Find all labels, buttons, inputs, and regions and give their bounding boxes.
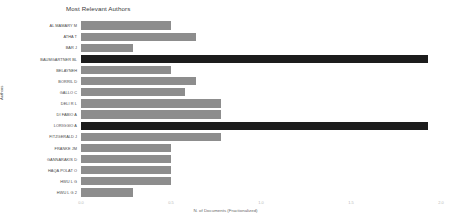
bar [81,21,171,29]
bar [81,122,428,130]
bar-fill [81,177,171,185]
bar-fill [81,44,133,52]
bar [81,133,221,141]
bar [81,110,221,118]
y-axis-tick-label: DELI R L [61,101,77,106]
plot-area [81,20,441,198]
x-axis-tick-label: 1.5 [348,200,354,205]
bar [81,177,171,185]
x-axis-tick-label: 1.0 [258,200,264,205]
y-axis-tick-labels: AL MAMARY MATHA TBAR JBAUMGARTNER BLBELA… [0,20,77,198]
chart-title: Most Relevant Authors [66,5,130,12]
y-axis-tick-label: GALLO C [60,90,77,95]
bar-fill [81,33,196,41]
gridline [441,20,442,198]
x-axis-title: N. of Documents (Fractionalized) [0,208,451,213]
gridline [171,20,172,198]
bar-fill [81,110,221,118]
bar-chart-figure: Most Relevant Authors Authors AL MAMARY … [0,0,451,224]
y-axis-tick-label: FRANKE JM [55,146,78,151]
bar [81,144,171,152]
bar [81,55,428,63]
y-axis-tick-label: AL MAMARY M [49,23,77,28]
bar-fill [81,88,185,96]
y-axis-tick-label: HAQA POLAT O [48,168,77,173]
bar-fill [81,188,133,196]
bar [81,66,171,74]
bar-fill [81,66,171,74]
bar [81,155,171,163]
y-axis-tick-label: BELAYNEH [56,68,77,73]
bar-fill [81,122,428,130]
y-axis-tick-label: BORRIL D [58,79,77,84]
bar [81,188,133,196]
x-axis-tick-label: 0.0 [78,200,84,205]
y-axis-tick-label: DI FABIO A [57,112,77,117]
bar-fill [81,166,171,174]
y-axis-tick-label: BAUMGARTNER BL [40,57,77,62]
bar-fill [81,133,221,141]
y-axis-tick-label: GANNARAKIS D [47,157,77,162]
bar [81,33,196,41]
bar [81,44,133,52]
bar-fill [81,155,171,163]
y-axis-tick-label: ATHA T [63,34,77,39]
bar-fill [81,55,428,63]
gridline [351,20,352,198]
y-axis-tick-label: LORIGGIO A [54,123,77,128]
y-axis-tick-label: HWU L G 2 [57,190,77,195]
y-axis-tick-label: HWU L G [60,179,77,184]
bar-fill [81,99,221,107]
bar [81,166,171,174]
bar [81,88,185,96]
bar-fill [81,144,171,152]
x-axis-tick-label: 2.0 [438,200,444,205]
x-axis-tick-label: 0.5 [168,200,174,205]
bar [81,77,196,85]
gridline [261,20,262,198]
bar-fill [81,21,171,29]
y-axis-tick-label: FITZGERALD J [49,134,77,139]
y-axis-tick-label: BAR J [66,45,77,50]
bar [81,99,221,107]
bar-fill [81,77,196,85]
